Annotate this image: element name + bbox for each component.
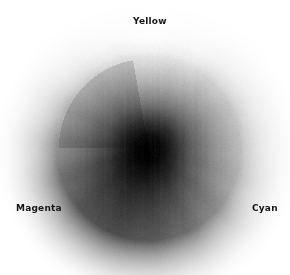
label-magenta: Magenta: [16, 203, 62, 214]
color-wheel-figure: Yellow Magenta Cyan: [0, 0, 290, 275]
color-wheel-canvas: [0, 0, 290, 275]
label-cyan: Cyan: [252, 203, 278, 214]
label-yellow: Yellow: [133, 16, 167, 27]
